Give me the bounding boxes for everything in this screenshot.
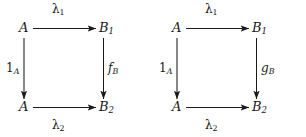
edge-label-top-subscript: 1 — [213, 8, 218, 17]
node-bottom-right: B2 — [99, 100, 114, 115]
edge-label-right-base: g — [261, 61, 269, 75]
commutative-square-right: A B1 A B2 λ1 λ2 1A gB — [153, 0, 306, 137]
commutative-square-left: A B1 A B2 λ1 λ2 1A fB — [0, 0, 153, 137]
node-bottom-right-subscript: 2 — [262, 105, 267, 115]
node-bottom-right-base: B — [252, 99, 262, 114]
edge-label-bottom-subscript: 2 — [213, 124, 218, 133]
edge-label-left-base: 1 — [6, 61, 14, 75]
edge-label-left: 1A — [6, 62, 19, 76]
edge-label-left-subscript: A — [167, 67, 173, 76]
edge-label-right: fB — [108, 62, 118, 76]
edge-label-right-subscript: B — [112, 67, 118, 76]
node-top-right-base: B — [252, 20, 262, 35]
edge-label-left: 1A — [159, 62, 172, 76]
commutative-diagram-figure: A B1 A B2 λ1 λ2 1A fB A B1 A B2 λ1 λ2 — [0, 0, 306, 137]
edge-label-bottom-subscript: 2 — [60, 124, 65, 133]
edge-label-top-base: λ — [52, 2, 60, 16]
edge-label-top-subscript: 1 — [60, 8, 65, 17]
node-bottom-right-base: B — [99, 99, 109, 114]
node-top-right: B1 — [99, 21, 114, 36]
edge-label-bottom-base: λ — [205, 118, 213, 132]
node-top-left: A — [19, 21, 28, 34]
edge-label-right: gB — [261, 62, 275, 76]
edge-label-right-subscript: B — [269, 67, 275, 76]
edge-label-top: λ1 — [205, 3, 218, 17]
node-bottom-left: A — [172, 100, 181, 113]
edge-label-left-base: 1 — [159, 61, 167, 75]
node-bottom-right: B2 — [252, 100, 267, 115]
node-bottom-left: A — [19, 100, 28, 113]
edge-label-bottom: λ2 — [205, 119, 218, 133]
node-bottom-right-subscript: 2 — [109, 105, 114, 115]
edge-label-top: λ1 — [52, 3, 65, 17]
node-top-left: A — [172, 21, 181, 34]
edge-label-top-base: λ — [205, 2, 213, 16]
edge-label-bottom-base: λ — [52, 118, 60, 132]
node-top-right-base: B — [99, 20, 109, 35]
edge-label-bottom: λ2 — [52, 119, 65, 133]
node-top-right-subscript: 1 — [109, 26, 114, 36]
edge-label-left-subscript: A — [14, 67, 20, 76]
node-top-right: B1 — [252, 21, 267, 36]
node-top-right-subscript: 1 — [262, 26, 267, 36]
